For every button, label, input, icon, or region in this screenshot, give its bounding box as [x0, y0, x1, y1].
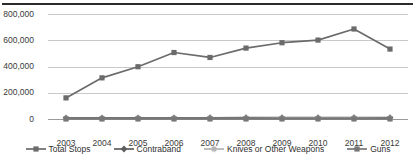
- data-point-marker: [99, 75, 104, 80]
- chart-legend: Total StopsContrabandKnives or Other Wea…: [0, 142, 415, 156]
- legend-item[interactable]: Knives or Other Weapons: [203, 144, 324, 154]
- data-point-marker: [315, 116, 320, 121]
- data-point-marker: [135, 116, 140, 121]
- legend-item-label: Guns: [370, 144, 390, 154]
- legend-item-label: Contraband: [137, 144, 181, 154]
- data-point-marker: [207, 116, 212, 121]
- legend-item-label: Total Stops: [49, 144, 91, 154]
- series-total-stops: [63, 26, 392, 100]
- data-point-marker: [135, 64, 140, 69]
- data-point-marker: [63, 116, 68, 121]
- data-point-marker: [387, 116, 392, 121]
- series-line: [66, 29, 390, 98]
- legend-item[interactable]: Guns: [346, 144, 390, 154]
- y-axis-tick-label: 200,000: [0, 88, 34, 97]
- data-point-marker: [171, 50, 176, 55]
- legend-item-label: Knives or Other Weapons: [227, 144, 324, 154]
- chart-top-rule: [2, 3, 413, 5]
- data-point-marker: [387, 46, 392, 51]
- plot-area: 0200,000400,000600,000800,000 2003200420…: [48, 14, 408, 119]
- data-point-marker: [315, 37, 320, 42]
- y-axis-tick-label: 800,000: [0, 10, 34, 19]
- data-point-marker: [171, 116, 176, 121]
- legend-marker-icon: [25, 144, 47, 154]
- legend-item[interactable]: Contraband: [113, 144, 181, 154]
- data-point-marker: [243, 45, 248, 50]
- legend-marker-icon: [203, 144, 225, 154]
- data-point-marker: [207, 55, 212, 60]
- series-layer: [48, 14, 408, 119]
- data-point-marker: [63, 95, 68, 100]
- data-point-marker: [351, 116, 356, 121]
- data-point-marker: [99, 116, 104, 121]
- y-axis-tick-label: 600,000: [0, 36, 34, 45]
- data-point-marker: [351, 26, 356, 31]
- data-point-marker: [279, 116, 284, 121]
- data-point-marker: [243, 116, 248, 121]
- data-point-marker: [279, 40, 284, 45]
- y-axis-tick-label: 0: [0, 115, 34, 124]
- legend-item[interactable]: Total Stops: [25, 144, 91, 154]
- legend-marker-icon: [113, 144, 135, 154]
- y-axis-tick-label: 400,000: [0, 62, 34, 71]
- stop-and-frisk-line-chart: 0200,000400,000600,000800,000 2003200420…: [0, 0, 415, 159]
- legend-marker-icon: [346, 144, 368, 154]
